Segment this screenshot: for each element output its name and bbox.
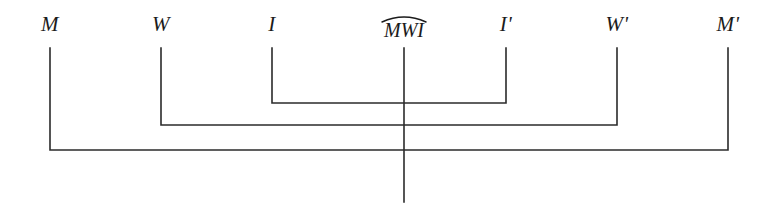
chiastic-structure-diagram: M W I MWI Iʹ Wʹ Mʹ <box>0 0 776 210</box>
node-label-mwi-wrap: MWI <box>384 14 424 40</box>
node-label-i-prime: Iʹ <box>500 14 512 35</box>
node-label-w-prime: Wʹ <box>606 14 629 35</box>
node-label-mwi-container: MWI <box>384 14 424 40</box>
middle-bracket <box>161 48 617 125</box>
node-label-mwi: MWI <box>384 19 424 41</box>
inner-bracket-path <box>272 48 506 103</box>
node-label-i: I <box>268 14 276 35</box>
outer-bracket <box>50 48 728 150</box>
middle-bracket-path <box>161 48 617 125</box>
node-label-w: W <box>152 14 170 35</box>
node-label-m-prime: Mʹ <box>717 14 740 35</box>
outer-bracket-path <box>50 48 728 150</box>
inner-bracket <box>272 48 506 103</box>
node-label-m: M <box>41 14 59 35</box>
